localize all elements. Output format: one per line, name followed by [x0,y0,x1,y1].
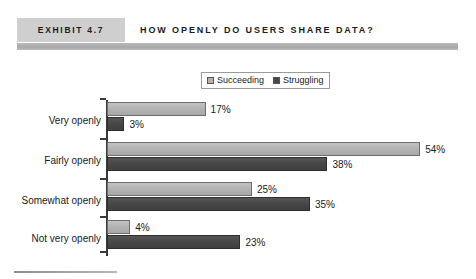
legend-label: Succeeding [217,76,264,85]
chart-category-group: Very openly17%3% [0,102,476,131]
bar-value-label: 38% [332,159,352,170]
exhibit-tag-box: EXHIBIT 4.7 [17,18,125,42]
bar-succeeding-somewhat-openly [107,182,252,196]
chart-legend: SucceedingStruggling [201,72,330,89]
bar-struggling-very-openly [107,117,124,131]
category-label: Very openly [0,115,101,126]
chart-category-group: Somewhat openly25%35% [0,182,476,211]
page-title: HOW OPENLY DO USERS SHARE DATA? [140,18,375,42]
bar-value-label: 17% [211,104,231,115]
axis-tick [100,138,106,140]
bar-value-label: 23% [245,237,265,248]
bar-value-label: 25% [257,184,277,195]
bar-value-label: 54% [425,144,445,155]
axis-tick [100,98,106,100]
bar-succeeding-not-very-openly [107,220,130,234]
chart-plot-area: Very openly17%3%Fairly openly54%38%Somew… [0,98,476,258]
bar-value-label: 35% [315,199,335,210]
light-gray-square-icon [207,77,214,84]
category-label: Fairly openly [0,155,101,166]
category-label: Somewhat openly [0,195,101,206]
legend-entry: Struggling [273,76,324,85]
footer-divider [14,271,117,273]
bar-struggling-somewhat-openly [107,197,310,211]
axis-tick [100,216,106,218]
header-divider [17,43,458,50]
bar-struggling-fairly-openly [107,157,327,171]
bar-succeeding-very-openly [107,102,206,116]
chart-category-group: Not very openly4%23% [0,220,476,249]
category-label: Not very openly [0,233,101,244]
bar-value-label: 4% [135,222,149,233]
bar-succeeding-fairly-openly [107,142,420,156]
bar-value-label: 3% [129,119,143,130]
dark-gray-square-icon [273,77,280,84]
axis-tick [100,178,106,180]
axis-tick [100,251,106,253]
exhibit-tag-label: EXHIBIT 4.7 [17,18,125,42]
legend-entry: Succeeding [207,76,264,85]
exhibit-header: EXHIBIT 4.7 HOW OPENLY DO USERS SHARE DA… [0,18,476,42]
bar-struggling-not-very-openly [107,235,240,249]
legend-label: Struggling [283,76,324,85]
chart-category-group: Fairly openly54%38% [0,142,476,171]
